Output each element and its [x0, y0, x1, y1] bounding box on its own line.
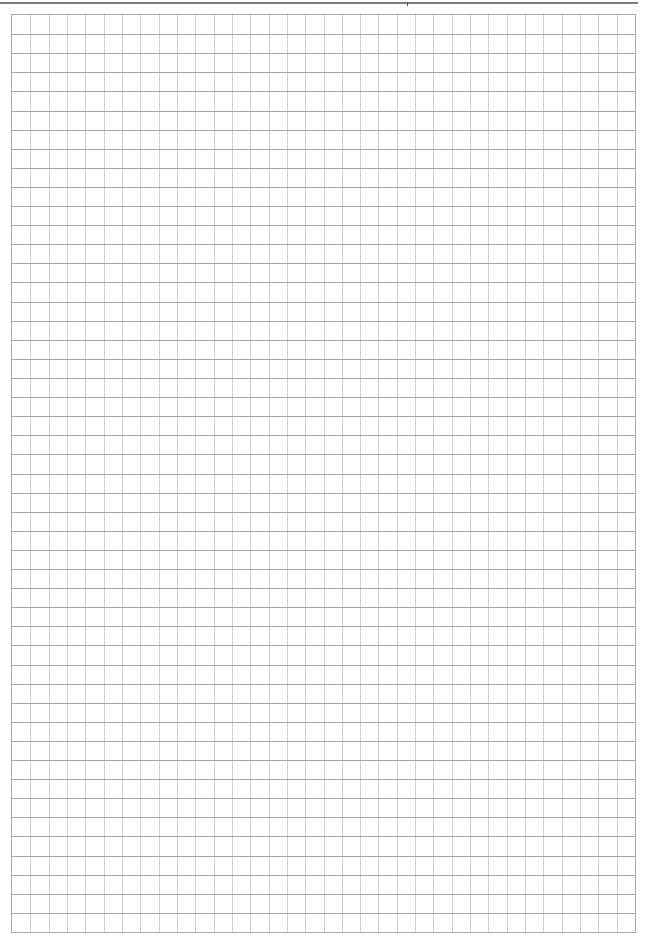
grid-horizontal-line: [12, 760, 635, 761]
grid-horizontal-line: [12, 588, 635, 589]
grid-horizontal-line: [12, 856, 635, 857]
grid-horizontal-line: [12, 512, 635, 513]
grid-horizontal-line: [12, 378, 635, 379]
grid-horizontal-line: [12, 302, 635, 303]
grid-horizontal-line: [12, 665, 635, 666]
graph-paper-grid: [11, 14, 636, 933]
grid-horizontal-line: [12, 435, 635, 436]
grid-horizontal-line: [12, 836, 635, 837]
grid-horizontal-line: [12, 474, 635, 475]
grid-horizontal-line: [12, 91, 635, 92]
grid-horizontal-line: [12, 340, 635, 341]
grid-horizontal-line: [12, 454, 635, 455]
header-tick-mark: [407, 2, 408, 6]
grid-horizontal-line: [12, 359, 635, 360]
grid-horizontal-line: [12, 913, 635, 914]
grid-horizontal-line: [12, 149, 635, 150]
grid-horizontal-line: [12, 531, 635, 532]
grid-horizontal-line: [12, 779, 635, 780]
header-rule: [0, 2, 638, 4]
grid-horizontal-line: [12, 187, 635, 188]
grid-horizontal-line: [12, 817, 635, 818]
grid-horizontal-line: [12, 741, 635, 742]
grid-horizontal-line: [12, 34, 635, 35]
grid-horizontal-line: [12, 569, 635, 570]
grid-horizontal-line: [12, 416, 635, 417]
grid-horizontal-line: [12, 263, 635, 264]
grid-horizontal-line: [12, 53, 635, 54]
grid-horizontal-line: [12, 282, 635, 283]
grid-horizontal-line: [12, 225, 635, 226]
grid-horizontal-line: [12, 722, 635, 723]
grid-horizontal-line: [12, 875, 635, 876]
grid-horizontal-line: [12, 607, 635, 608]
grid-horizontal-line: [12, 72, 635, 73]
grid-horizontal-line: [12, 168, 635, 169]
grid-horizontal-line: [12, 626, 635, 627]
grid-horizontal-line: [12, 550, 635, 551]
grid-horizontal-line: [12, 684, 635, 685]
grid-horizontal-line: [12, 206, 635, 207]
grid-horizontal-line: [12, 130, 635, 131]
grid-horizontal-line: [12, 645, 635, 646]
grid-horizontal-line: [12, 397, 635, 398]
grid-horizontal-line: [12, 798, 635, 799]
grid-horizontal-line: [12, 111, 635, 112]
grid-horizontal-line: [12, 244, 635, 245]
grid-horizontal-line: [12, 321, 635, 322]
grid-horizontal-line: [12, 894, 635, 895]
grid-horizontal-line: [12, 703, 635, 704]
grid-horizontal-line: [12, 493, 635, 494]
